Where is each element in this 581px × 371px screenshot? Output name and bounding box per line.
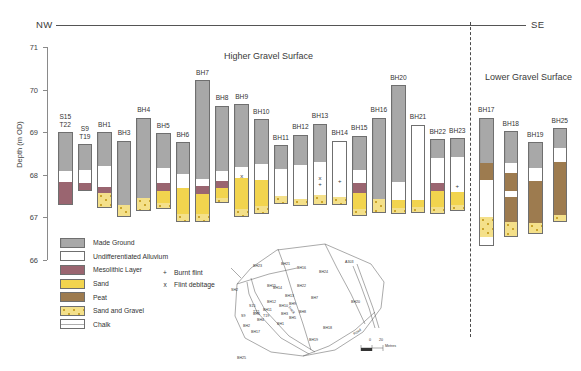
borehole-label: BH7 [189, 69, 216, 76]
borehole-column[interactable] [479, 118, 494, 247]
legend-label: Peat [93, 294, 107, 301]
borehole-layer-sg [274, 196, 289, 204]
axis-tick [43, 47, 47, 48]
burnt-flint-marker: + [338, 178, 342, 184]
borehole-column[interactable] [553, 128, 568, 223]
borehole-layer-allu [274, 169, 289, 196]
borehole-column[interactable] [254, 119, 269, 214]
borehole-column[interactable] [504, 131, 519, 237]
borehole-layer-sg [372, 199, 387, 213]
figure-canvas: NW SE Depth (m OD) 717069686766 Higher G… [0, 0, 581, 371]
borehole-layer-made [430, 139, 445, 158]
borehole-layer-peat [504, 173, 519, 191]
axis-tick [43, 175, 47, 176]
borehole-layer-allu [293, 165, 308, 198]
legend-label: Mesolithic Layer [93, 266, 142, 273]
borehole-layer-sg [528, 223, 543, 234]
borehole-column[interactable] [528, 142, 543, 234]
borehole-layer-sg [332, 197, 347, 205]
legend-item: Peat [60, 290, 168, 304]
map-borehole-label: BH8 [299, 310, 306, 314]
borehole-column[interactable] [97, 132, 112, 208]
borehole-column[interactable] [430, 139, 445, 214]
borehole-label: BH4 [130, 106, 157, 113]
borehole-layer-allu [156, 168, 171, 183]
borehole-label: BH9 [228, 93, 255, 100]
borehole-layer-sand [450, 192, 465, 206]
borehole-label: BH12 [287, 123, 314, 130]
map-borehole-label: S15 [249, 304, 255, 308]
borehole-column[interactable] [215, 106, 230, 203]
borehole-layer-sand [215, 188, 230, 198]
borehole-layer-sand [254, 180, 269, 206]
map-borehole-label: BH12 [267, 300, 276, 304]
borehole-layer-sand [411, 200, 426, 208]
borehole-column[interactable] [136, 118, 151, 212]
borehole-column[interactable] [58, 132, 73, 205]
borehole-column[interactable] [274, 145, 289, 204]
borehole-layer-allu [78, 170, 93, 184]
map-borehole-label: BH19 [309, 338, 318, 342]
legend-item: Mesolithic Layer [60, 263, 168, 277]
borehole-column[interactable] [313, 124, 328, 205]
borehole-layer-sand [234, 178, 249, 209]
borehole-layer-sand [176, 188, 191, 214]
borehole-label: BH23 [444, 127, 471, 134]
borehole-layer-allu [58, 171, 73, 183]
axis-tick-label: 71 [22, 43, 38, 52]
map-borehole-label: BH21 [281, 262, 290, 266]
borehole-column[interactable] [332, 141, 347, 205]
map-scale-tick-0: 0 [369, 338, 371, 342]
borehole-column[interactable] [234, 104, 249, 216]
borehole-layer-made [479, 118, 494, 163]
map-borehole-label: BH18 [323, 326, 332, 330]
axis-tick [43, 217, 47, 218]
borehole-layer-sg [254, 206, 269, 214]
map-borehole-label: SH2 [231, 288, 238, 292]
section-title-lower: Lower Gravel Surface [485, 72, 572, 82]
legend-item: Chalk [60, 318, 168, 332]
borehole-layer-made [504, 131, 519, 163]
borehole-column[interactable] [156, 133, 171, 209]
borehole-layer-sg [450, 205, 465, 211]
borehole-layer-made [274, 145, 289, 169]
borehole-label: BH3 [111, 129, 138, 136]
panel-divider [470, 22, 471, 337]
borehole-layer-made [156, 133, 171, 168]
borehole-column[interactable] [176, 142, 191, 221]
borehole-column[interactable] [293, 135, 308, 207]
map-borehole-label: BH25 [237, 356, 246, 360]
borehole-label: BH21 [405, 113, 432, 120]
borehole-layer-made [372, 118, 387, 200]
borehole-layer-made [450, 138, 465, 157]
legend-label: Made Ground [93, 239, 135, 246]
borehole-column[interactable] [391, 85, 406, 214]
borehole-layer-sand [430, 191, 445, 207]
axis-tick [43, 90, 47, 91]
borehole-layer-sand [352, 193, 367, 209]
borehole-column[interactable] [411, 125, 426, 214]
borehole-column[interactable] [450, 138, 465, 211]
borehole-layer-allu [553, 148, 568, 162]
borehole-layer-made [195, 80, 210, 179]
legend-swatch-sand [60, 279, 85, 289]
map-borehole-label: BH10 [279, 304, 288, 308]
borehole-layer-allu [430, 158, 445, 184]
borehole-label: BH13 [307, 112, 334, 119]
borehole-layer-made [58, 132, 73, 170]
borehole-label: BH15 [346, 124, 373, 131]
axis-tick-label: 69 [22, 128, 38, 137]
legend-swatch-peat [60, 292, 85, 302]
borehole-column[interactable] [117, 141, 132, 217]
legend: Made GroundUndifferentiated AlluviumMeso… [60, 236, 168, 331]
borehole-column[interactable] [195, 80, 210, 221]
borehole-layer-sg [553, 215, 568, 223]
axis-label-depth: Depth (m OD) [15, 110, 24, 180]
borehole-column[interactable] [372, 118, 387, 213]
borehole-layer-meso [195, 186, 210, 195]
burnt-flint-marker: + [455, 183, 459, 189]
map-scale-unit: Metres [385, 344, 396, 348]
borehole-column[interactable] [352, 136, 367, 216]
borehole-column[interactable] [78, 144, 93, 191]
legend-swatch-allu [60, 251, 85, 261]
